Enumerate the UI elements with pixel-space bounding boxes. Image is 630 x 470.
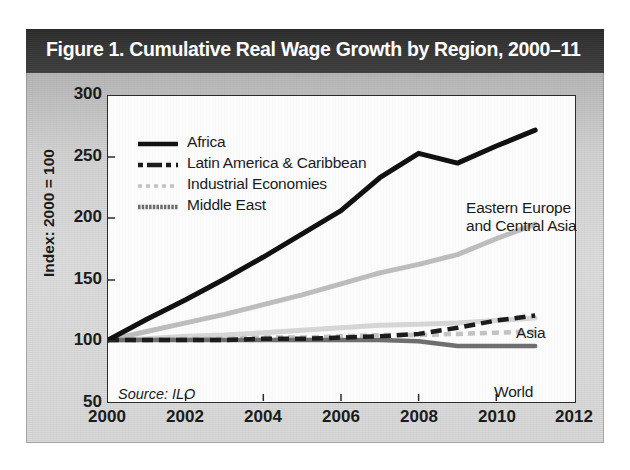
x-tick-2012: 2012 xyxy=(542,407,606,427)
legend-swatch-latin-america-caribbean xyxy=(137,157,179,169)
source-note: Source: ILO xyxy=(118,386,195,402)
y-tick-300: 300 xyxy=(62,84,102,104)
series-line-middle-east xyxy=(108,340,535,346)
plot-area: Africa Latin America & Caribbean Industr… xyxy=(107,95,576,403)
y-tick-250: 250 xyxy=(62,146,102,166)
x-tick-2004: 2004 xyxy=(231,407,295,427)
y-tick-150: 150 xyxy=(62,269,102,289)
annotation-asia: Asia xyxy=(516,324,545,342)
legend-swatch-africa xyxy=(137,136,179,148)
legend-label-middle-east: Middle East xyxy=(187,196,266,214)
title-band: Figure 1. Cumulative Real Wage Growth by… xyxy=(26,29,604,73)
legend-label-africa: Africa xyxy=(187,133,225,151)
x-tick-2008: 2008 xyxy=(387,407,451,427)
figure-container: Figure 1. Cumulative Real Wage Growth by… xyxy=(0,0,630,470)
figure-card: Figure 1. Cumulative Real Wage Growth by… xyxy=(26,29,604,443)
annotation-eeca-line1: Eastern Europe xyxy=(466,199,577,217)
legend-item-middle-east[interactable]: Middle East xyxy=(137,195,387,216)
x-tick-2000: 2000 xyxy=(75,407,139,427)
legend-item-africa[interactable]: Africa xyxy=(137,132,387,153)
legend-label-latin-america-caribbean: Latin America & Caribbean xyxy=(187,154,366,172)
x-tick-2002: 2002 xyxy=(153,407,217,427)
legend-label-industrial-economies: Industrial Economies xyxy=(187,175,327,193)
y-axis-ticks: 300 250 200 150 100 50 xyxy=(52,95,102,403)
y-tick-100: 100 xyxy=(62,330,102,350)
legend-item-industrial-economies[interactable]: Industrial Economies xyxy=(137,174,387,195)
legend-swatch-industrial-economies xyxy=(137,178,179,190)
y-axis-label: Index: 2000 = 100 xyxy=(40,128,58,298)
page-title: Figure 1. Cumulative Real Wage Growth by… xyxy=(46,38,581,61)
y-tick-200: 200 xyxy=(62,207,102,227)
x-tick-2006: 2006 xyxy=(309,407,373,427)
x-axis-ticks: 2000 2002 2004 2006 2008 2010 2012 xyxy=(107,407,576,433)
legend-item-latin-america-caribbean[interactable]: Latin America & Caribbean xyxy=(137,153,387,174)
annotation-eastern-europe-central-asia: Eastern Europe and Central Asia xyxy=(466,199,577,235)
x-tick-2010: 2010 xyxy=(465,407,529,427)
chart-legend: Africa Latin America & Caribbean Industr… xyxy=(137,132,387,216)
annotation-eeca-line2: and Central Asia xyxy=(466,217,577,235)
legend-swatch-middle-east xyxy=(137,199,179,211)
annotation-world: World xyxy=(494,383,533,401)
